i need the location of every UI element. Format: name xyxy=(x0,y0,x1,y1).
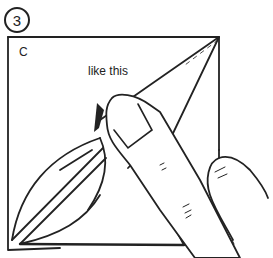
leaf-top-extension xyxy=(60,150,92,170)
origami-step-illustration: 3 C like this xyxy=(0,0,273,258)
leaf-center-1 xyxy=(12,148,103,240)
fold-diagram xyxy=(0,0,273,258)
step-number-badge: 3 xyxy=(4,7,30,33)
finger-icon xyxy=(106,95,240,258)
corner-label: C xyxy=(19,45,28,59)
thumb-crease xyxy=(215,167,227,178)
paper-bottom-edge xyxy=(20,244,184,245)
inner-crease xyxy=(185,40,218,65)
instruction-text: like this xyxy=(88,64,128,78)
